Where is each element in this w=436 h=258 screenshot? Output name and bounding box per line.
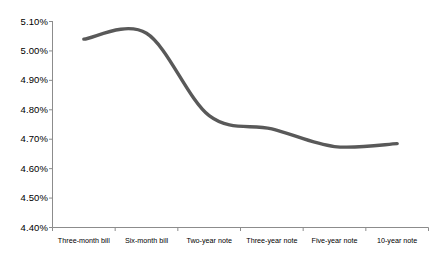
y-axis-label-6: 4.50%	[2, 193, 48, 203]
yield-curve-chart: 5.10%5.00%4.90%4.80%4.70%4.60%4.50%4.40%…	[0, 0, 436, 258]
y-axis-label-4: 4.70%	[2, 134, 48, 144]
x-axis-label-5: 10-year note	[377, 236, 417, 245]
x-axis-label-0: Three-month bill	[58, 236, 110, 245]
x-axis-label-4: Five-year note	[312, 236, 358, 245]
chart-plot-area	[0, 0, 436, 258]
series-line-treasury-yield	[84, 29, 397, 148]
x-axis-label-3: Three-year note	[246, 236, 297, 245]
y-axis-label-0: 5.10%	[2, 17, 48, 27]
y-axis-label-2: 4.90%	[2, 75, 48, 85]
x-axis-label-1: Six-month bill	[125, 236, 168, 245]
y-axis-label-1: 5.00%	[2, 46, 48, 56]
axis-group	[53, 21, 429, 228]
y-axis-label-3: 4.80%	[2, 105, 48, 115]
x-axis-label-2: Two-year note	[186, 236, 232, 245]
y-axis-label-7: 4.40%	[2, 223, 48, 233]
y-axis-label-5: 4.60%	[2, 164, 48, 174]
